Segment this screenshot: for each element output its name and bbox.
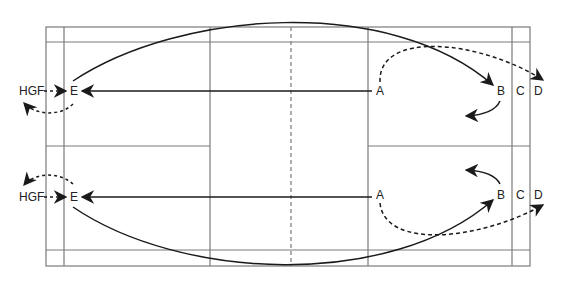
arrow-e-to-hgf-bottom: [24, 175, 73, 185]
label-b-bottom: B: [497, 189, 505, 201]
label-d-bottom: D: [534, 189, 543, 201]
label-a-bottom: A: [376, 189, 384, 201]
arrow-e-to-b-top: [73, 23, 493, 85]
arrow-a-to-d-top: [380, 46, 543, 82]
arrow-a-to-d-bottom: [380, 203, 543, 235]
arrow-e-to-b-bottom: [73, 200, 493, 265]
label-c-top: C: [516, 85, 525, 97]
label-c-bottom: C: [516, 189, 525, 201]
label-a-top: A: [376, 85, 384, 97]
arrows-top: [24, 23, 543, 116]
label-hgf-top: HGF: [19, 85, 44, 97]
label-e-top: E: [70, 85, 78, 97]
court-svg: [0, 0, 564, 282]
label-hgf-bottom: HGF: [19, 191, 44, 203]
court-diagram: HGF E A B C D HGF E A B C D: [0, 0, 564, 282]
label-b-top: B: [497, 85, 505, 97]
label-e-bottom: E: [70, 191, 78, 203]
court-lines: [46, 27, 530, 266]
arrow-e-to-hgf-top: [24, 103, 73, 113]
label-d-top: D: [534, 85, 543, 97]
arrow-b-back-top: [466, 101, 500, 116]
arrow-b-back-bottom: [466, 170, 500, 184]
